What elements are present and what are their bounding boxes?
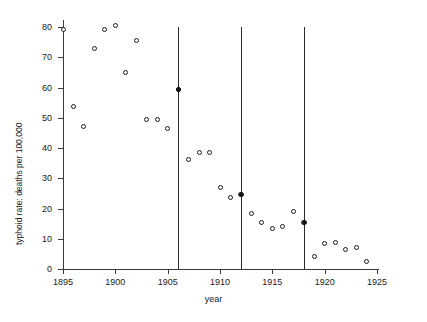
y-tick-mark	[58, 178, 63, 179]
y-tick-label: 30	[0, 174, 52, 183]
plot-area	[63, 20, 377, 269]
y-tick-mark	[58, 269, 63, 270]
intervention-line	[304, 27, 305, 269]
y-tick-label: 10	[0, 235, 52, 244]
data-point	[291, 209, 296, 214]
data-point	[228, 195, 233, 200]
data-point	[61, 27, 66, 32]
data-point	[312, 254, 317, 259]
data-point	[144, 117, 149, 122]
y-tick-label: 60	[0, 84, 52, 93]
y-tick-label: 80	[0, 23, 52, 32]
x-tick-label: 1925	[357, 277, 397, 288]
typhoid-rate-scatter-chart: 1895190019051910191519201925 01020304050…	[0, 0, 427, 322]
x-tick-label: 1915	[252, 277, 292, 288]
y-tick-label: 0	[0, 265, 52, 274]
intervention-marker	[302, 220, 307, 225]
x-tick-mark	[377, 269, 378, 274]
y-tick-label: 50	[0, 114, 52, 123]
x-tick-mark	[325, 269, 326, 274]
intervention-marker	[239, 192, 244, 197]
data-point	[197, 150, 202, 155]
data-point	[155, 117, 160, 122]
y-tick-mark	[58, 239, 63, 240]
intervention-line	[241, 27, 242, 269]
data-point	[165, 126, 170, 131]
data-point	[364, 259, 369, 264]
x-tick-label: 1910	[200, 277, 240, 288]
y-tick-mark	[58, 118, 63, 119]
x-tick-mark	[168, 269, 169, 274]
data-point	[333, 240, 338, 245]
x-axis-label: year	[0, 294, 427, 304]
data-point	[134, 38, 139, 43]
y-tick-label: 70	[0, 53, 52, 62]
data-point	[71, 104, 76, 109]
y-axis-line	[63, 20, 64, 270]
y-tick-label: 40	[0, 144, 52, 153]
intervention-line	[178, 27, 179, 269]
x-tick-label: 1920	[305, 277, 345, 288]
y-tick-mark	[58, 148, 63, 149]
x-tick-label: 1895	[43, 277, 83, 288]
x-tick-mark	[115, 269, 116, 274]
y-axis-label: typhoid rate: deaths per 100,000	[14, 123, 24, 245]
y-tick-mark	[58, 88, 63, 89]
data-point	[354, 245, 359, 250]
data-point	[218, 185, 223, 190]
x-tick-mark	[272, 269, 273, 274]
x-tick-label: 1900	[95, 277, 135, 288]
x-axis-line	[63, 269, 379, 270]
x-tick-mark	[63, 269, 64, 274]
y-tick-mark	[58, 209, 63, 210]
data-point	[113, 23, 118, 28]
x-tick-mark	[220, 269, 221, 274]
y-tick-label: 20	[0, 205, 52, 214]
y-tick-mark	[58, 57, 63, 58]
x-tick-label: 1905	[148, 277, 188, 288]
